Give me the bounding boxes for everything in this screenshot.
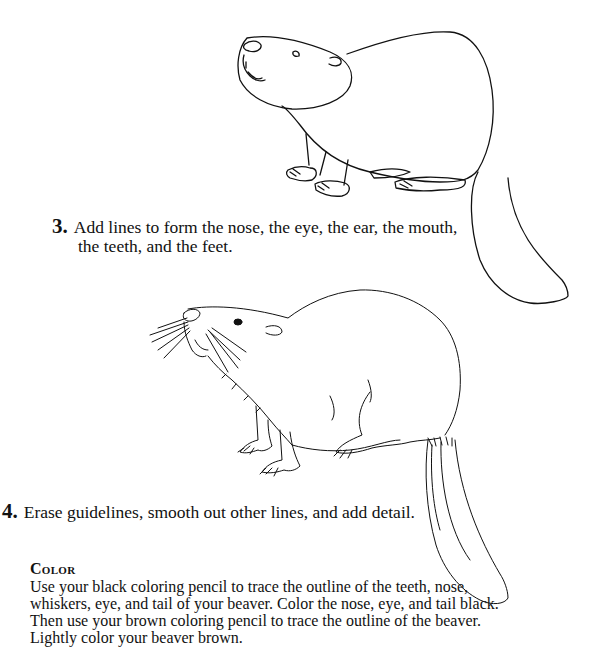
step-3-instruction: 3.Add lines to form the nose, the eye, t…: [52, 217, 472, 256]
step-3-text-line1: Add lines to form the nose, the eye, the…: [74, 217, 458, 237]
color-body-text: Use your black coloring pencil to trace …: [30, 578, 510, 646]
step-4-number: 4.: [2, 499, 18, 523]
step4-beaver-drawing: [150, 290, 508, 604]
step-3-text-line2: the teeth, and the feet.: [52, 237, 472, 256]
drawing-illustrations: [0, 0, 600, 647]
step-4-text: Erase guidelines, smooth out other lines…: [24, 502, 415, 522]
step3-beaver-drawing: [238, 32, 568, 304]
color-heading: Color: [30, 561, 510, 577]
step-4-instruction: 4.Erase guidelines, smooth out other lin…: [2, 502, 562, 522]
step-3-number: 3.: [52, 214, 68, 238]
color-instructions-section: Color Use your black coloring pencil to …: [30, 561, 510, 646]
